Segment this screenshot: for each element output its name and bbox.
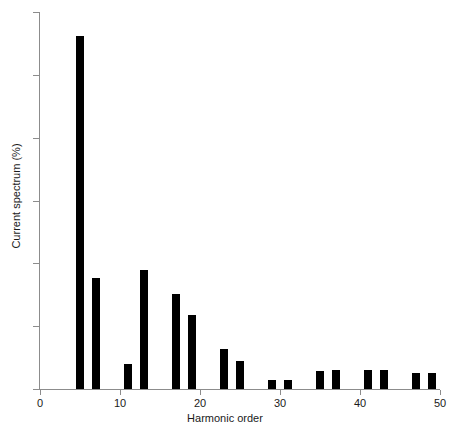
x-tick-mark — [360, 390, 361, 395]
bar — [172, 294, 180, 390]
bar — [76, 36, 84, 389]
y-tick-mark — [33, 201, 39, 202]
x-tick-mark — [120, 390, 121, 395]
y-tick-mark — [33, 389, 39, 390]
bar — [428, 373, 436, 389]
x-axis-title: Harmonic order — [0, 412, 450, 424]
y-tick-mark — [33, 263, 39, 264]
bar — [332, 370, 340, 389]
y-tick-mark — [33, 12, 39, 13]
x-tick-label: 40 — [345, 397, 375, 409]
x-tick-label: 10 — [105, 397, 135, 409]
y-tick-mark — [33, 138, 39, 139]
bar — [412, 373, 420, 389]
y-axis-title: Current spectrum (%) — [10, 96, 22, 296]
bar — [140, 270, 148, 389]
bar — [124, 364, 132, 389]
x-tick-mark — [280, 390, 281, 395]
bar — [268, 380, 276, 389]
x-tick-label: 30 — [265, 397, 295, 409]
x-axis-line — [39, 389, 440, 390]
bar — [284, 380, 292, 389]
bar — [380, 370, 388, 389]
plot-area — [40, 12, 440, 389]
x-tick-label: 0 — [25, 397, 55, 409]
bar — [220, 349, 228, 389]
bar — [236, 361, 244, 389]
bar — [188, 315, 196, 389]
x-tick-label: 50 — [425, 397, 450, 409]
y-tick-mark — [33, 326, 39, 327]
x-tick-mark — [200, 390, 201, 395]
y-tick-mark — [33, 75, 39, 76]
bar — [364, 370, 372, 389]
bar — [316, 371, 324, 389]
bar — [92, 278, 100, 389]
x-tick-label: 20 — [185, 397, 215, 409]
x-tick-mark — [40, 390, 41, 395]
harmonic-spectrum-chart: 0123456 01020304050 Current spectrum (%)… — [0, 0, 450, 430]
x-tick-mark — [440, 390, 441, 395]
